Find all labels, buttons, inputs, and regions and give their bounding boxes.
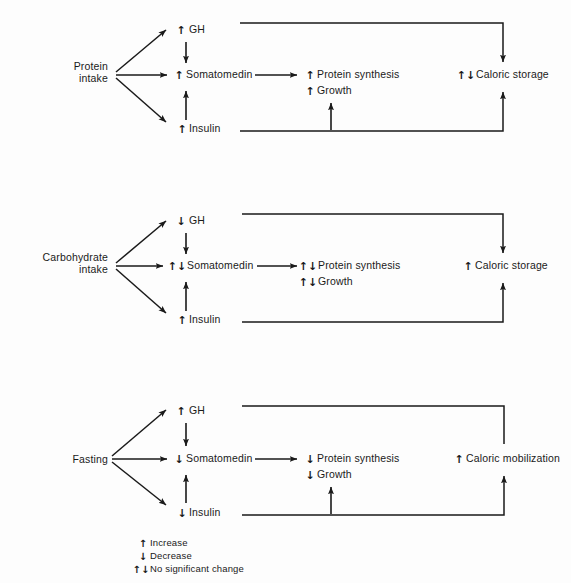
outcome-change-glyph: ↑↓ [457,69,475,82]
line-insulin-to-outcome [242,476,504,515]
outcome-change-glyph: ↑ [454,453,463,466]
somatomedin-label: Somatomedin [186,452,252,464]
protein-synthesis-change-glyph: ↑ [305,69,314,82]
insulin-change-glyph: ↑ [177,123,186,136]
outcome-label: Caloric storage [476,68,549,80]
protein-synthesis-change-glyph: ↑↓ [299,260,317,273]
line-gh-to-outcome [242,406,504,444]
growth-label: Growth [318,275,353,287]
insulin-label: Insulin [189,122,220,134]
somatomedin-label: Somatomedin [186,68,252,80]
gh-label: GH [189,404,205,416]
no-change-glyph: ↑↓ [133,564,150,575]
protein-synthesis-label: Protein synthesis [317,68,400,80]
insulin-label: Insulin [189,313,220,325]
growth-change-glyph: ↑↓ [299,276,317,289]
somatomedin-change-glyph: ↑ [174,69,183,82]
outcome-label: Caloric storage [475,259,548,271]
arrow-source-to-insulin [116,78,166,122]
arrow-source-to-gh [116,221,166,263]
somatomedin-label: Somatomedin [187,259,253,271]
no-change-label: No significant change [150,563,244,574]
decrease-label: Decrease [150,550,192,561]
gh-change-glyph: ↑ [176,405,185,418]
legend-item-no-change: ↑↓ No significant change [133,563,244,575]
legend-item-decrease: ↓ Decrease [139,550,192,562]
protein-synthesis-change-glyph: ↓ [305,453,314,466]
growth-change-glyph: ↑ [305,85,314,98]
arrow-source-to-gh [112,410,166,456]
outcome-change-glyph: ↑ [463,260,472,273]
line-insulin-to-outcome [240,92,503,131]
arrow-source-to-insulin [112,462,166,505]
somatomedin-change-glyph: ↑↓ [168,260,186,273]
endocrine-flow-diagram: Protein intake ↑ GH ↑ Somatomedin ↑ Insu… [0,0,571,583]
protein-synthesis-label: Protein synthesis [318,259,401,271]
gh-change-glyph: ↓ [176,215,185,228]
source-label-line2: intake [79,263,108,275]
decrease-glyph: ↓ [139,551,147,562]
line-gh-to-outcome [242,214,503,253]
legend: ↑ Increase ↓ Decrease ↑↓ No significant … [133,537,244,575]
arrow-source-to-gh [116,30,166,72]
gh-change-glyph: ↑ [176,24,185,37]
somatomedin-change-glyph: ↓ [174,453,183,466]
panel-protein: Protein intake ↑ GH ↑ Somatomedin ↑ Insu… [74,23,549,136]
insulin-label: Insulin [189,506,220,518]
increase-label: Increase [150,537,188,548]
source-label-line2: intake [79,72,108,84]
gh-label: GH [189,23,205,35]
source-label-line1: Protein [74,60,108,72]
line-insulin-to-outcome [242,283,503,322]
insulin-change-glyph: ↑ [177,314,186,327]
growth-label: Growth [317,84,352,96]
source-label-line1: Fasting [73,453,108,465]
panel-fasting: Fasting ↑ GH ↓ Somatomedin ↓ Insulin ↓ P… [73,404,561,520]
arrow-source-to-insulin [116,269,166,313]
growth-change-glyph: ↓ [305,469,314,482]
growth-label: Growth [317,468,352,480]
panel-carbohydrate: Carbohydrate intake ↓ GH ↑↓ Somatomedin … [43,214,548,327]
legend-item-increase: ↑ Increase [139,537,188,549]
protein-synthesis-label: Protein synthesis [317,452,400,464]
outcome-label: Caloric mobilization [466,452,560,464]
gh-label: GH [189,214,205,226]
line-gh-to-outcome [240,23,503,62]
source-label-line1: Carbohydrate [43,251,108,263]
diagram-page: Protein intake ↑ GH ↑ Somatomedin ↑ Insu… [0,0,571,583]
increase-glyph: ↑ [139,538,147,549]
insulin-change-glyph: ↓ [177,507,186,520]
